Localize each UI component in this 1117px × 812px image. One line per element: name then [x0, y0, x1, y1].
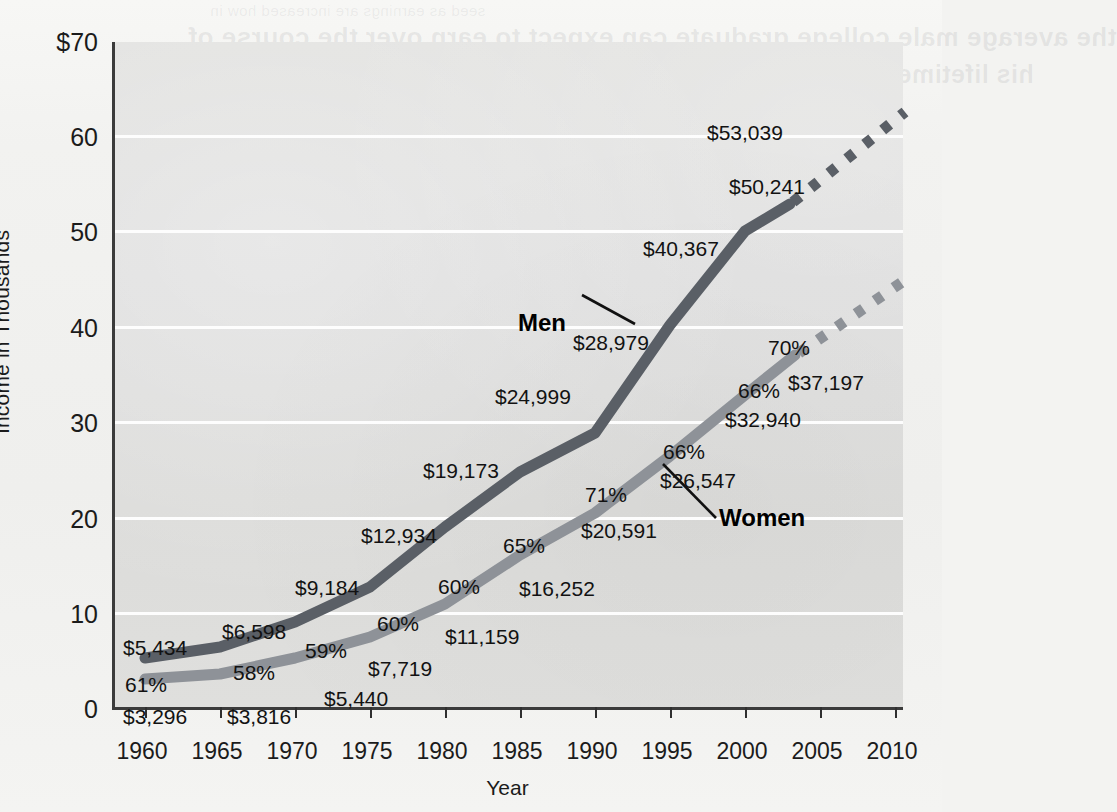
x-label-1980: 1980 — [402, 738, 482, 765]
x-label-2010: 2010 — [852, 738, 932, 765]
men-value-label: $50,241 — [729, 175, 805, 199]
x-label-1975: 1975 — [327, 738, 407, 765]
ratio-label: 60% — [377, 612, 419, 636]
y-tick-0: 0 — [12, 695, 98, 724]
ratio-label: 65% — [503, 534, 545, 558]
plot-area: $5,434 $6,598 $9,184 $12,934 $19,173 $24… — [112, 42, 903, 710]
x-label-1965: 1965 — [177, 738, 257, 765]
x-tick-1980 — [445, 707, 447, 718]
women-value-label: $7,719 — [368, 657, 432, 681]
women-value-label: $26,547 — [660, 469, 736, 493]
ratio-label: 70% — [768, 336, 810, 360]
men-value-label: $24,999 — [495, 385, 571, 409]
women-value-label: $32,940 — [725, 408, 801, 432]
x-tick-2005 — [820, 707, 822, 718]
ratio-label: 66% — [738, 379, 780, 403]
ratio-label: 71% — [585, 483, 627, 507]
x-label-1960: 1960 — [102, 738, 182, 765]
men-value-label: $28,979 — [573, 331, 649, 355]
y-tick-70: $70 — [12, 28, 98, 57]
x-label-2005: 2005 — [777, 738, 857, 765]
x-tick-2010 — [895, 707, 897, 718]
y-tick-30: 30 — [12, 409, 98, 438]
y-tick-10: 10 — [12, 600, 98, 629]
x-label-1985: 1985 — [477, 738, 557, 765]
women-value-label: $37,197 — [788, 371, 864, 395]
men-value-label: $5,434 — [123, 636, 187, 660]
x-label-1995: 1995 — [627, 738, 707, 765]
men-value-label: $9,184 — [295, 576, 359, 600]
men-value-label: $6,598 — [222, 620, 286, 644]
men-value-label: $53,039 — [707, 121, 783, 145]
y-tick-50: 50 — [12, 218, 98, 247]
men-projection-line — [793, 112, 905, 202]
women-value-label: $5,440 — [324, 687, 388, 711]
x-tick-1975 — [370, 707, 372, 718]
x-label-1970: 1970 — [252, 738, 332, 765]
women-value-label: $16,252 — [519, 577, 595, 601]
y-axis-title: Income in Thousands — [0, 72, 14, 592]
ratio-label: 66% — [663, 440, 705, 464]
bleed-text-line-1: seed as earnings are increased how in — [210, 2, 485, 19]
women-series-label: Women — [719, 504, 805, 532]
ratio-label: 61% — [125, 673, 167, 697]
y-tick-20: 20 — [12, 505, 98, 534]
women-value-label: $3,816 — [227, 705, 291, 729]
women-projection-line — [799, 280, 905, 353]
x-tick-1990 — [595, 707, 597, 718]
x-axis-title: Year — [112, 776, 903, 800]
men-value-label: $19,173 — [423, 459, 499, 483]
ratio-label: 60% — [438, 575, 480, 599]
x-tick-1970 — [295, 707, 297, 718]
ratio-label: 59% — [305, 639, 347, 663]
men-series-label: Men — [518, 309, 566, 337]
x-tick-1985 — [520, 707, 522, 718]
men-value-label: $40,367 — [643, 237, 719, 261]
men-leader-line — [582, 295, 635, 324]
x-label-2000: 2000 — [702, 738, 782, 765]
x-tick-1995 — [670, 707, 672, 718]
y-tick-40: 40 — [12, 314, 98, 343]
x-tick-1965 — [220, 707, 222, 718]
men-value-label: $12,934 — [361, 524, 437, 548]
women-value-label: $20,591 — [581, 519, 657, 543]
x-tick-2000 — [745, 707, 747, 718]
x-label-1990: 1990 — [552, 738, 632, 765]
ratio-label: 58% — [233, 661, 275, 685]
women-value-label: $11,159 — [445, 625, 519, 649]
women-value-label: $3,296 — [123, 705, 187, 729]
x-tick-1960 — [145, 707, 147, 718]
y-tick-60: 60 — [12, 123, 98, 152]
